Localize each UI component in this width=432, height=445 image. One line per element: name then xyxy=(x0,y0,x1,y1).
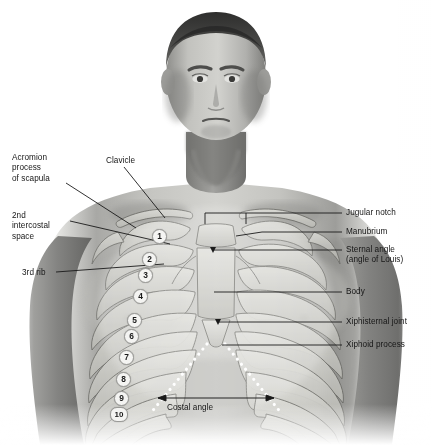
label-costal-angle: Costal angle xyxy=(167,403,213,413)
rib-number-badge: 5 xyxy=(127,313,142,328)
label-sternal-angle: Sternal angle (angle of Louis) xyxy=(346,245,403,266)
rib-number-badge: 6 xyxy=(124,329,139,344)
anatomy-figure: Acromion process of scapula 2nd intercos… xyxy=(0,0,432,445)
rib-number-badge: 8 xyxy=(116,372,131,387)
rib-number-badge: 4 xyxy=(133,289,148,304)
label-manubrium: Manubrium xyxy=(346,227,387,237)
rib-number-badge: 7 xyxy=(119,350,134,365)
rib-number-badge: 3 xyxy=(138,268,153,283)
anatomy-illustration xyxy=(0,0,432,445)
label-2nd-intercostal-space: 2nd intercostal space xyxy=(12,211,50,242)
label-jugular-notch: Jugular notch xyxy=(346,208,396,218)
label-clavicle: Clavicle xyxy=(106,156,135,166)
label-xiphisternal-joint: Xiphisternal joint xyxy=(346,317,407,327)
label-xiphoid-process: Xiphoid process xyxy=(346,340,405,350)
rib-number-badge: 1 xyxy=(152,229,167,244)
label-acromion-process-of-scapula: Acromion process of scapula xyxy=(12,153,50,184)
label-3rd-rib: 3rd rib xyxy=(22,268,46,278)
rib-number-badge: 10 xyxy=(110,407,128,422)
rib-number-badge: 9 xyxy=(114,391,129,406)
label-body: Body xyxy=(346,287,365,297)
rib-number-badge: 2 xyxy=(142,252,157,267)
